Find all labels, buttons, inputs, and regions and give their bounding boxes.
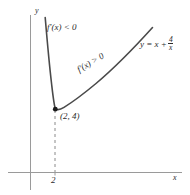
fraction-denominator: x bbox=[168, 43, 173, 52]
x-axis-label: x bbox=[173, 174, 177, 182]
y-axis-label: y bbox=[35, 7, 39, 15]
derivative-negative-annotation: f'(x) < 0 bbox=[47, 23, 77, 32]
fraction-numerator: 4 bbox=[168, 36, 174, 44]
curve-equation-label: y = x + 4 x bbox=[140, 36, 174, 53]
calculus-figure: y x 2 f'(x) < 0 f'(x) > 0 (2, 4) y = x +… bbox=[0, 0, 190, 195]
minimum-point-marker bbox=[53, 107, 58, 112]
minimum-point-label: (2, 4) bbox=[60, 112, 80, 121]
equation-fraction: 4 x bbox=[168, 36, 174, 53]
graph-canvas bbox=[0, 0, 190, 195]
equation-left-side: y = x + bbox=[140, 40, 167, 49]
x-tick-label-2: 2 bbox=[51, 176, 56, 185]
